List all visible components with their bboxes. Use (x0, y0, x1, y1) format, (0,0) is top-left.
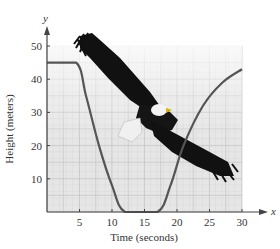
y-axis-label: Height (meters) (3, 94, 16, 164)
x-tick-label: 10 (107, 216, 119, 228)
x-tick-label: 5 (77, 216, 83, 228)
x-axis-label: Time (seconds) (110, 231, 178, 244)
x-axis-arrow-icon (259, 209, 268, 215)
x-tick-label: 30 (237, 216, 249, 228)
y-tick-label: 40 (31, 73, 43, 85)
x-tick-label: 20 (172, 216, 184, 228)
y-axis-arrow-icon (44, 26, 50, 35)
y-tick-label: 30 (31, 106, 43, 118)
height-vs-time-chart: 510152025301020304050 x y Time (seconds)… (0, 0, 280, 249)
x-tick-label: 25 (204, 216, 216, 228)
x-tick-label: 15 (139, 216, 151, 228)
x-axis-variable: x (270, 205, 276, 217)
y-tick-label: 10 (31, 173, 43, 185)
y-tick-label: 50 (31, 40, 43, 52)
y-tick-label: 20 (31, 140, 43, 152)
y-axis-variable: y (42, 12, 48, 24)
